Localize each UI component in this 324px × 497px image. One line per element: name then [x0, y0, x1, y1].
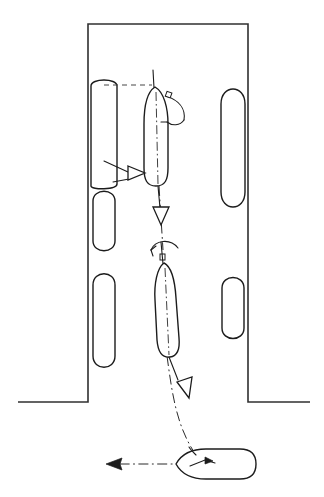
rotation-arc-upper-curve	[166, 96, 184, 120]
moored-vessel-right-2	[222, 278, 244, 339]
astern-arrow-lower-head	[177, 377, 192, 398]
rotation-arc-upper-tail	[167, 120, 184, 125]
ship-manoeuvre-diagram	[0, 0, 324, 497]
moored-vessel-left-3	[93, 274, 115, 368]
moored-vessel-left-2	[93, 191, 115, 251]
rotation-arc-middle	[151, 241, 178, 260]
astern-arrow-lower	[177, 377, 192, 398]
astern-arrow-upper	[153, 207, 169, 225]
ship-position-1-upper	[144, 70, 168, 208]
astern-arrow-upper-head	[153, 207, 169, 225]
departure-arrow	[106, 458, 122, 470]
ship-hull-final	[176, 449, 256, 479]
rotation-arc-middle-tickright	[151, 250, 153, 256]
ship-position-3-outside	[176, 447, 256, 479]
moored-vessel-right-1	[221, 89, 245, 207]
lateral-push-head	[128, 166, 145, 180]
moored-vessel-left-1	[91, 80, 117, 189]
rotation-arc-middle-curve	[151, 241, 178, 250]
bow-reference-mast-upper	[153, 70, 154, 88]
angle-marker-upper	[165, 91, 172, 98]
diagram-canvas	[0, 0, 324, 497]
track-lower-segment	[167, 356, 205, 464]
departure-arrow-head	[106, 458, 122, 470]
ship-hull-upper	[144, 87, 168, 186]
